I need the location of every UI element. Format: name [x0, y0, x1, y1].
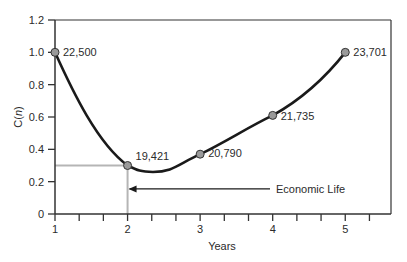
y-tick-label: 1.0	[29, 46, 44, 58]
y-tick-label: 0.4	[29, 143, 44, 155]
x-tick-label: 5	[342, 223, 348, 235]
data-point-marker	[124, 162, 132, 170]
x-axis-ticks: 12345	[52, 214, 370, 235]
x-tick-label: 2	[125, 223, 131, 235]
economic-life-annotation: Economic Life	[129, 183, 346, 195]
y-axis-title: C(n)	[12, 106, 24, 127]
economic-life-reference-lines	[55, 166, 128, 215]
x-axis-title: Years	[208, 240, 236, 252]
data-point-marker	[51, 48, 59, 56]
chart: 00.20.40.60.81.01.2 12345 22,50019,42120…	[0, 0, 407, 262]
arrow-head-icon	[129, 185, 137, 192]
data-point-label: 21,735	[281, 110, 315, 122]
y-tick-label: 1.2	[29, 14, 44, 26]
x-tick-label: 3	[197, 223, 203, 235]
data-point-label: 20,790	[208, 147, 242, 159]
y-tick-label: 0.6	[29, 111, 44, 123]
data-point-marker	[341, 48, 349, 56]
data-point-marker	[269, 111, 277, 119]
y-tick-label: 0.8	[29, 79, 44, 91]
data-point-label: 19,421	[136, 150, 170, 162]
x-tick-label: 1	[52, 223, 58, 235]
data-point-marker	[196, 150, 204, 158]
data-point-label: 23,701	[353, 46, 387, 58]
y-tick-label: 0	[38, 208, 44, 220]
economic-life-label: Economic Life	[276, 183, 345, 195]
y-axis-ticks: 00.20.40.60.81.01.2	[29, 14, 55, 220]
data-point-label: 22,500	[63, 46, 97, 58]
x-tick-label: 4	[270, 223, 276, 235]
y-tick-label: 0.2	[29, 176, 44, 188]
